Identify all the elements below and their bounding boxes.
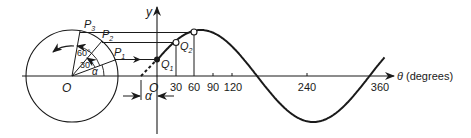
point-q2-label: Q2 [180, 40, 193, 54]
phase-alpha-label: α [145, 89, 153, 103]
point-q3 [191, 29, 197, 35]
alpha-arc [102, 65, 104, 76]
tick-label-90: 90 [207, 81, 219, 93]
tick-label-30: 30 [170, 81, 182, 93]
sine-wave-diagram: O α 30° 60° P1 P2 P3 y θ(degrees) O 30 6… [0, 0, 471, 138]
y-axis-label: y [145, 5, 153, 19]
point-q1 [154, 57, 160, 63]
phasor-circle-group: O α 30° 60° P1 P2 P3 [22, 18, 157, 122]
x-axis-label: θ(degrees) [397, 70, 453, 82]
angle-30-label: 30° [80, 60, 94, 70]
point-p1-label: P1 [114, 46, 125, 60]
dashed-phase-line [141, 60, 157, 77]
tick-label-240: 240 [298, 81, 316, 93]
tick-label-60: 60 [188, 81, 200, 93]
point-p2-label: P2 [102, 28, 113, 42]
point-p3-label: P3 [84, 18, 95, 32]
circle-center-label: O [62, 81, 71, 95]
point-q1-label: Q1 [161, 58, 174, 72]
point-q2 [173, 40, 179, 46]
rotation-arrow-icon [53, 46, 74, 52]
angle-60-label: 60° [77, 48, 91, 58]
tick-label-360: 360 [371, 81, 389, 93]
graph-axes: y θ(degrees) O 30 60 90 120 240 360 [145, 5, 453, 134]
tick-label-120: 120 [224, 81, 242, 93]
